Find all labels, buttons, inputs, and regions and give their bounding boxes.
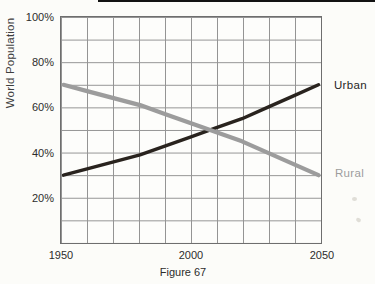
- scan-artifact-smudge: [355, 217, 361, 223]
- figure-caption: Figure 67: [123, 266, 243, 278]
- x-tick-label-1950: 1950: [41, 249, 81, 261]
- series-label-rural: Rural: [335, 167, 364, 179]
- series-line-urban: [64, 85, 319, 175]
- y-tick-label-60: 60%: [0, 100, 54, 114]
- y-tick-label-100: 100%: [0, 10, 54, 24]
- scan-artifact-smudge: [352, 197, 357, 201]
- x-tick-label-2050: 2050: [302, 249, 342, 261]
- series-label-urban: Urban: [334, 79, 367, 91]
- figure-container: World Population 100% 80% 60% 40% 20% Ur…: [0, 0, 375, 284]
- plot-lines: [61, 17, 321, 243]
- x-tick-label-2000: 2000: [171, 249, 211, 261]
- y-tick-label-40: 40%: [0, 146, 54, 160]
- scan-artifact-top-bar: [98, 0, 375, 2]
- y-tick-label-20: 20%: [0, 191, 54, 205]
- series-line-rural: [64, 85, 319, 175]
- y-tick-label-80: 80%: [0, 55, 54, 69]
- plot-area: [60, 16, 322, 244]
